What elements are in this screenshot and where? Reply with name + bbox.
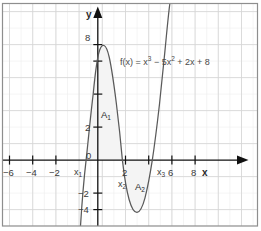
cubic-function-graph: x y −6 −4 −2 2 6 8 0 2 8 −2 −4 x1 x2 x3 … bbox=[0, 0, 261, 231]
function-formula-label: f(x) = x3 − 5x2 + 2x + 8 bbox=[120, 58, 210, 67]
x-tick-label-8: 8 bbox=[191, 168, 196, 178]
y-tick-label-minus4: −4 bbox=[78, 205, 89, 215]
x-tick-label-minus4: −4 bbox=[26, 168, 37, 178]
region-a1-subscript: 1 bbox=[107, 114, 111, 121]
graph-canvas bbox=[0, 0, 261, 231]
root-x1-subscript: 1 bbox=[79, 171, 83, 178]
root-x1-base: x bbox=[74, 167, 79, 177]
x-axis-label: x bbox=[202, 168, 208, 178]
root-label-x1: x1 bbox=[74, 168, 82, 177]
root-label-x2: x2 bbox=[118, 180, 126, 189]
x-tick-label-6: 6 bbox=[168, 168, 173, 178]
y-tick-label-minus2: −2 bbox=[78, 189, 89, 199]
y-tick-label-2: 2 bbox=[85, 123, 90, 133]
root-x2-subscript: 2 bbox=[123, 183, 127, 190]
formula-prefix: f(x) = x bbox=[120, 57, 148, 67]
y-tick-label-0: 0 bbox=[86, 151, 91, 161]
root-label-x3: x3 bbox=[157, 168, 165, 177]
y-tick-label-8: 8 bbox=[85, 33, 90, 43]
root-x3-subscript: 3 bbox=[162, 171, 166, 178]
x-tick-label-minus6: −6 bbox=[3, 168, 14, 178]
y-axis-label: y bbox=[86, 10, 92, 20]
formula-suffix: + 2x + 8 bbox=[175, 57, 210, 67]
x-tick-label-2: 2 bbox=[122, 168, 127, 178]
region-label-a2: A2 bbox=[135, 182, 145, 192]
root-x2-base: x bbox=[118, 179, 123, 189]
formula-middle: − 5x bbox=[151, 57, 171, 67]
region-a2-subscript: 2 bbox=[141, 186, 145, 193]
x-tick-label-minus2: −2 bbox=[49, 168, 60, 178]
root-x3-base: x bbox=[157, 167, 162, 177]
region-label-a1: A1 bbox=[101, 110, 111, 120]
